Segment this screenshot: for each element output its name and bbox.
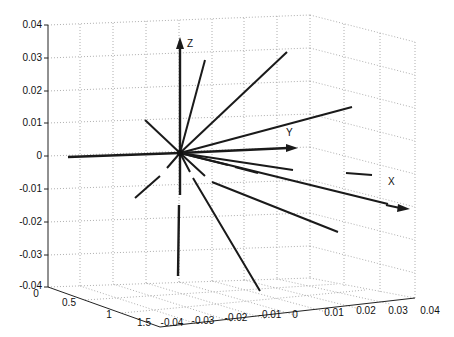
z-tick-label: 0.04 [23,19,43,30]
ray-down-left [135,153,180,198]
axis-box [48,25,415,327]
ray-up-1 [180,60,205,153]
z-tick-label: -0.01 [19,183,42,194]
rays [68,52,388,291]
depth-tick-label: 1.5 [137,317,151,328]
arrowhead-icon [176,37,184,49]
depth-axis-labels: 0 0.5 1 1.5 [33,288,151,328]
y-tick-label: -0.04 [161,317,184,328]
3d-plot: 0.04 0.03 0.02 0.01 0 -0.01 -0.02 -0.03 … [0,0,454,337]
z-tick-label: -0.04 [19,280,42,291]
y-axis-label: Y [286,127,293,138]
y-tick-label: 0.04 [420,305,440,316]
y-tick-label: 0 [292,309,298,320]
z-tick-label: 0.03 [23,52,43,63]
ray-down-steep [180,153,260,291]
z-axis-ticks [44,25,48,287]
arrowhead-icon [397,204,410,212]
origin-point [177,150,183,156]
z-tick-label: 0.02 [23,85,43,96]
x-axis-label: X [388,176,395,187]
z-tick-label: 0.01 [23,117,43,128]
depth-tick-label: 1 [106,309,112,320]
x-axis-arrow: X [386,176,410,212]
z-axis-labels: 0.04 0.03 0.02 0.01 0 -0.01 -0.02 -0.03 … [19,19,42,291]
ray-down-vertical [178,153,180,276]
ray-right-segment [346,173,372,175]
ray-upleft [145,120,180,153]
z-tick-label: -0.03 [19,249,42,260]
z-tick-label: 0 [36,150,42,161]
y-tick-label: 0.01 [324,307,344,318]
y-tick-label: 0.03 [388,305,408,316]
x-ray [180,153,388,204]
horizontal-axis-labels: -0.04 -0.03 -0.02 -0.01 0 0.01 0.02 0.03… [161,305,441,328]
y-tick-label: -0.01 [259,309,282,320]
z-tick-label: -0.02 [19,216,42,227]
depth-tick-label: 0 [33,288,39,299]
y-tick-label: 0.02 [356,305,376,316]
arrowhead-icon [286,144,298,152]
y-tick-label: -0.03 [192,315,215,326]
z-axis-label: Z [187,38,193,49]
y-tick-label: -0.02 [225,312,248,323]
depth-tick-label: 0.5 [62,297,76,308]
